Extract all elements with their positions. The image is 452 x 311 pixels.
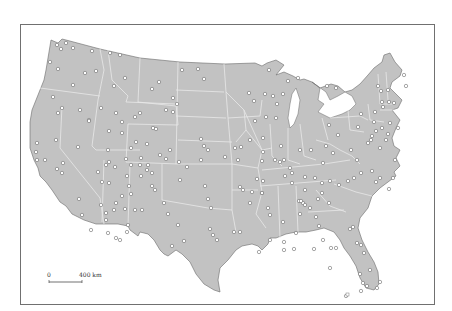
site-point [199, 158, 202, 161]
site-point [387, 100, 390, 103]
site-point [368, 268, 371, 271]
site-point [241, 188, 244, 191]
site-point [369, 138, 372, 141]
site-point [352, 176, 355, 179]
site-point [89, 228, 92, 231]
site-point [236, 158, 239, 161]
site-point [359, 289, 362, 292]
site-point [138, 111, 141, 114]
site-point [153, 188, 156, 191]
site-point [43, 158, 46, 161]
site-point [99, 106, 102, 109]
site-point [261, 136, 264, 139]
site-point [123, 76, 126, 79]
site-point [374, 129, 377, 132]
site-point [55, 167, 58, 170]
site-point [370, 169, 373, 172]
site-point [77, 197, 80, 200]
site-point [268, 213, 271, 216]
site-point [215, 238, 218, 241]
site-point [208, 227, 211, 230]
site-point [118, 53, 121, 56]
site-point [387, 187, 390, 190]
site-point [123, 207, 126, 210]
site-point [359, 243, 362, 246]
site-point [238, 185, 241, 188]
site-point [106, 231, 109, 234]
site-point [60, 171, 63, 174]
site-point [376, 84, 379, 87]
site-point [133, 208, 136, 211]
site-point [83, 71, 86, 74]
site-point [317, 224, 320, 227]
site-point [104, 211, 107, 214]
site-point [334, 246, 337, 249]
site-point [209, 206, 212, 209]
site-point [260, 191, 263, 194]
site-point [223, 155, 226, 158]
site-point [391, 176, 394, 179]
site-point [120, 194, 123, 197]
site-point [177, 160, 180, 163]
site-point [359, 112, 362, 115]
site-point [396, 126, 399, 129]
site-point [282, 158, 285, 161]
site-point [402, 73, 405, 76]
site-point [334, 86, 337, 89]
site-point [56, 111, 59, 114]
site-point [185, 165, 188, 168]
site-point [290, 171, 293, 174]
site-point [313, 176, 316, 179]
site-point [168, 148, 171, 151]
site-point [267, 68, 270, 71]
site-point [351, 225, 354, 228]
site-point [303, 188, 306, 191]
site-point [337, 183, 340, 186]
site-point [238, 230, 241, 233]
site-point [112, 84, 115, 87]
site-point [129, 163, 132, 166]
site-point [171, 96, 174, 99]
site-point [206, 197, 209, 200]
site-point [196, 67, 199, 70]
site-point [126, 223, 129, 226]
site-point [281, 92, 284, 95]
site-point [232, 230, 235, 233]
site-point [55, 43, 58, 46]
site-point [281, 220, 284, 223]
site-point [129, 146, 132, 149]
site-point [199, 137, 202, 140]
site-point [96, 170, 99, 173]
site-point [404, 84, 407, 87]
site-point [113, 165, 116, 168]
site-point [349, 148, 352, 151]
site-point [71, 83, 74, 86]
site-point [182, 239, 185, 242]
site-point [366, 141, 369, 144]
scale-start-label: 0 [47, 271, 51, 278]
site-point [361, 281, 364, 284]
site-point [299, 199, 302, 202]
site-point [303, 175, 306, 178]
site-point [139, 174, 142, 177]
site-point [362, 251, 365, 254]
site-point [94, 69, 97, 72]
site-point [164, 157, 167, 160]
site-point [329, 246, 332, 249]
site-point [370, 134, 373, 137]
site-point [107, 160, 110, 163]
site-point [107, 181, 110, 184]
site-point [298, 212, 301, 215]
site-point [331, 151, 334, 154]
site-point [145, 142, 148, 145]
site-point [139, 156, 142, 159]
site-point [379, 89, 382, 92]
site-point [380, 126, 383, 129]
site-point [381, 105, 384, 108]
site-point [175, 102, 178, 105]
site-point [112, 208, 115, 211]
offshore-marker [346, 293, 349, 296]
site-point [211, 233, 214, 236]
site-point [384, 138, 387, 141]
site-point [327, 123, 330, 126]
